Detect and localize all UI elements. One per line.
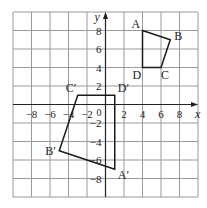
y-tick-label: 8 [96, 25, 102, 37]
x-tick-label: 6 [158, 108, 164, 120]
y-axis-label: y [94, 10, 101, 24]
vertex-label: A [132, 17, 141, 31]
x-axis-label: x [194, 107, 201, 121]
y-tick-label: −4 [90, 136, 102, 148]
y-axis-arrow-icon [103, 12, 108, 19]
x-tick-label: 8 [177, 108, 183, 120]
y-tick-label: 4 [96, 62, 102, 74]
vertex-label: C [161, 68, 169, 82]
vertex-label: D [133, 68, 142, 82]
y-tick-label: −8 [90, 173, 102, 185]
x-tick-label: 2 [121, 108, 127, 120]
quadrilaterals: ABCDA′B′C′D′ [45, 17, 182, 183]
vertex-label: A′ [118, 168, 130, 182]
y-tick-label: 2 [96, 80, 102, 92]
vertex-label: D′ [118, 81, 130, 95]
vertex-label: B′ [45, 144, 56, 158]
origin-label: 0 [97, 107, 102, 118]
vertex-label: B [174, 29, 182, 43]
y-tick-label: 6 [96, 43, 102, 55]
x-tick-label: −8 [26, 108, 38, 120]
coordinate-grid-diagram: −8−6−4−224688642−2−4−6−8 ABCDA′B′C′D′ x … [0, 0, 207, 208]
x-tick-label: 4 [140, 108, 146, 120]
y-tick-label: −2 [90, 117, 102, 129]
x-tick-label: −6 [44, 108, 56, 120]
vertex-label: C′ [66, 81, 77, 95]
